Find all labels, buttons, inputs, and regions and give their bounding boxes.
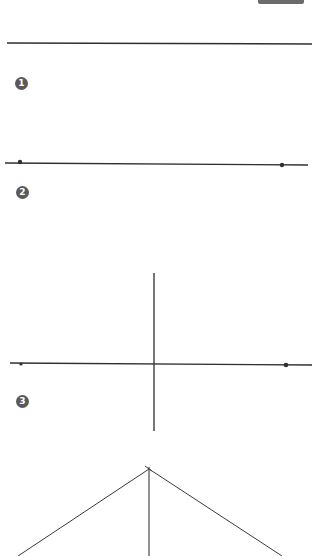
step2-endpoint-left	[18, 160, 22, 164]
step4-right-slope	[149, 469, 282, 556]
construction-diagram	[0, 0, 319, 556]
step3-horizontal-line	[10, 363, 312, 365]
step-badge-2: 2	[16, 186, 29, 199]
step3-endpoint-right	[284, 363, 289, 368]
step4-left-slope	[18, 469, 149, 556]
step2-endpoint-right	[280, 163, 284, 167]
step3-endpoint-left	[19, 362, 22, 365]
step-badge-1: 1	[15, 77, 28, 90]
step-badge-3: 3	[16, 395, 29, 408]
step2-line	[5, 163, 308, 165]
step1-line	[7, 43, 312, 44]
